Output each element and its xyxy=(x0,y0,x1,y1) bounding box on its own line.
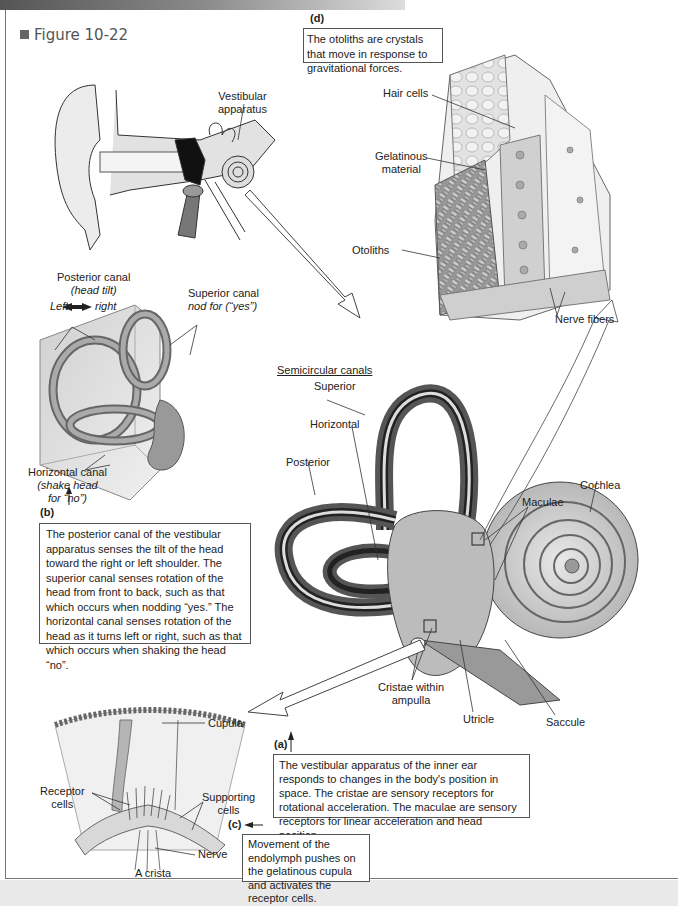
label-vestibular-apparatus: Vestibular apparatus xyxy=(218,90,267,116)
macula-otolith-illustration xyxy=(435,55,610,320)
label-cupula: Cupula xyxy=(208,717,243,730)
label-cristae-within-ampulla: Cristae within ampulla xyxy=(378,681,444,707)
label-note: for “no”) xyxy=(28,492,107,505)
label-supporting-cells: Supporting cells xyxy=(202,791,255,817)
label-superior-canal: Superior canal nod for (“yes”) xyxy=(188,287,259,313)
label-horizontal-canal: Horizontal canal (shake head for “no”) xyxy=(28,466,107,505)
label-text: Supporting xyxy=(202,791,255,804)
label-text: Superior canal xyxy=(188,287,259,300)
label-superior: Superior xyxy=(314,380,356,393)
label-gelatinous-material: Gelatinous material xyxy=(375,150,428,176)
panel-b-caption: The posterior canal of the vestibular ap… xyxy=(39,523,251,644)
label-a-crista: A crista xyxy=(135,867,171,880)
label-text: apparatus xyxy=(218,103,267,116)
label-note: (head tilt) xyxy=(57,284,130,297)
label-note: (shake head xyxy=(28,479,107,492)
label-text: Vestibular xyxy=(218,90,267,103)
label-otoliths: Otoliths xyxy=(352,244,389,257)
label-utricle: Utricle xyxy=(463,713,494,726)
label-text: ampulla xyxy=(378,694,444,707)
panel-c-caption: Movement of the endolymph pushes on the … xyxy=(242,834,370,882)
label-text: Gelatinous xyxy=(375,150,428,163)
inner-ear-illustration xyxy=(284,393,638,705)
label-nerve: Nerve xyxy=(198,848,227,861)
label-text: Posterior canal xyxy=(57,271,130,284)
label-text: Receptor xyxy=(40,785,85,798)
label-posterior-canal: Posterior canal (head tilt) xyxy=(57,271,130,297)
label-posterior: Posterior xyxy=(286,456,330,469)
label-semicircular-canals: Semicircular canals xyxy=(277,364,372,377)
label-receptor-cells: Receptor cells xyxy=(40,785,85,811)
label-cochlea: Cochlea xyxy=(580,479,620,492)
panel-a-tag: (a) xyxy=(274,738,287,750)
label-left: Left xyxy=(50,300,68,313)
panel-d-tag: (d) xyxy=(310,12,324,24)
panel-b-tag: (b) xyxy=(40,506,54,518)
label-text: cells xyxy=(202,804,255,817)
label-text: material xyxy=(375,163,428,176)
label-text: cells xyxy=(40,798,85,811)
label-maculae: Maculae xyxy=(522,496,564,509)
panel-c-tag: (c) xyxy=(228,818,241,830)
label-hair-cells: Hair cells xyxy=(383,87,428,100)
label-horizontal: Horizontal xyxy=(310,418,360,431)
label-note: nod for (“yes”) xyxy=(188,300,259,313)
label-saccule: Saccule xyxy=(546,716,585,729)
label-nerve-fibers: Nerve fibers xyxy=(555,313,614,326)
label-right: right xyxy=(95,300,116,313)
label-text: Cristae within xyxy=(378,681,444,694)
label-text: Horizontal canal xyxy=(28,466,107,479)
panel-d-caption: The otoliths are crystals that move in r… xyxy=(303,28,443,63)
panel-a-caption: The vestibular apparatus of the inner ea… xyxy=(273,754,530,818)
